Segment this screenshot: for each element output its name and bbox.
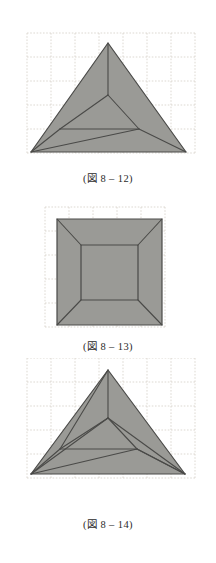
figure-8-12-caption: (図 8 – 12) — [0, 172, 216, 186]
figure-8-13-block: (図 8 – 13) — [0, 190, 216, 358]
figure-8-12-block: (図 8 – 12) — [0, 0, 216, 190]
caption-text-8-14: (図 8 – 14) — [83, 519, 133, 530]
caption-text-8-12: (図 8 – 12) — [83, 173, 133, 184]
figure-8-12-canvas — [0, 0, 216, 172]
figure-8-14-block: (図 8 – 14) — [0, 358, 216, 563]
caption-text-8-13: (図 8 – 13) — [83, 341, 133, 352]
figure-8-13-caption: (図 8 – 13) — [0, 340, 216, 354]
figure-8-13-canvas — [0, 190, 216, 340]
figure-page: (図 8 – 12) (図 8 – 13) (図 8 – 14) — [0, 0, 216, 563]
figure-8-14-caption: (図 8 – 14) — [0, 518, 216, 532]
figure-8-14-canvas — [0, 358, 216, 518]
